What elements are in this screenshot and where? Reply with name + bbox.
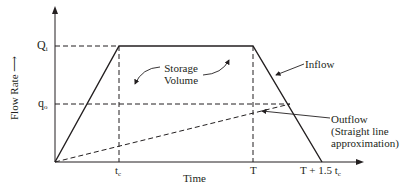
inflow-label: Inflow bbox=[305, 58, 334, 70]
storage-volume-label: Storage Volume bbox=[164, 62, 198, 86]
x-tick-tc: tc bbox=[115, 164, 121, 180]
outflow-label: Outflow (Straight line approximation) bbox=[331, 113, 399, 149]
inflow-arrow-icon bbox=[276, 64, 304, 75]
storage-arrow-right-icon bbox=[203, 60, 229, 75]
y-axis-label: Flow Rate ⟶ bbox=[8, 56, 21, 120]
x-tick-T: T bbox=[250, 164, 257, 176]
y-tick-qi: Qi bbox=[37, 39, 48, 55]
y-tick-qo: qo bbox=[38, 97, 48, 113]
hydrograph-diagram bbox=[0, 0, 415, 189]
x-axis-arrow-icon bbox=[356, 159, 364, 165]
x-tick-T-plus-1.5tc: T + 1.5 tc bbox=[300, 164, 341, 180]
storage-arrow-left-icon bbox=[135, 67, 160, 84]
x-axis-label: Time bbox=[183, 172, 206, 184]
y-axis-arrow-icon bbox=[52, 6, 58, 14]
outflow-line bbox=[55, 104, 290, 162]
